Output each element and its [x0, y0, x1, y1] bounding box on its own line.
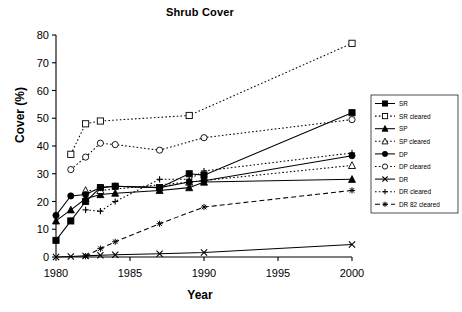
marker-filled-circle: [201, 178, 207, 184]
marker-asterisk: [112, 239, 118, 245]
marker-asterisk: [349, 187, 355, 193]
marker-filled-circle: [68, 193, 74, 199]
marker-filled-square: [186, 171, 192, 177]
marker-open-circle: [97, 140, 103, 146]
series-dr-82-cleared: [83, 187, 356, 259]
marker-asterisk: [157, 221, 163, 227]
marker-plus: [97, 208, 103, 214]
legend-label: DR 82 cleared: [399, 201, 440, 208]
marker-open-square: [349, 40, 355, 46]
y-tick-label: 70: [37, 57, 49, 69]
y-tick-label: 0: [43, 251, 49, 263]
legend-entry-sr-cleared[interactable]: SR cleared: [375, 113, 431, 120]
marker-plus: [83, 207, 89, 213]
y-tick-label: 40: [37, 140, 49, 152]
x-tick-label: 1985: [118, 267, 142, 279]
legend-entry-dr-82-cleared[interactable]: DR 82 cleared: [375, 201, 440, 208]
legend-label: DP: [399, 151, 408, 158]
x-tick-label: 1990: [192, 267, 216, 279]
legend-label: DR: [399, 176, 409, 183]
marker-filled-triangle: [67, 206, 74, 213]
y-tick-label: 50: [37, 112, 49, 124]
marker-asterisk: [201, 204, 207, 210]
marker-filled-circle: [112, 183, 118, 189]
marker-filled-circle: [83, 191, 89, 197]
marker-filled-square: [53, 237, 59, 243]
marker-open-triangle: [349, 162, 356, 169]
series-line: [71, 43, 352, 154]
marker-filled-square: [68, 218, 74, 224]
marker-open-square: [68, 151, 74, 157]
marker-open-square: [83, 121, 89, 127]
y-tick-label: 10: [37, 223, 49, 235]
marker-open-circle: [349, 117, 355, 123]
x-tick-label: 1980: [44, 267, 68, 279]
marker-open-square: [186, 112, 192, 118]
legend-label: DP cleared: [399, 163, 431, 170]
legend: SRSR clearedSPSP clearedDPDP clearedDRDR…: [371, 95, 458, 213]
marker-asterisk: [83, 253, 89, 259]
marker-open-circle: [112, 142, 118, 148]
marker-filled-circle: [157, 185, 163, 191]
series-sr-cleared: [68, 40, 355, 157]
series-sr: [53, 110, 355, 244]
marker-open-circle: [68, 166, 74, 172]
series-dp-cleared: [68, 117, 355, 173]
legend-label: DR cleared: [399, 188, 431, 195]
legend-entry-dp-cleared[interactable]: DP cleared: [375, 163, 431, 170]
marker-open-circle: [201, 135, 207, 141]
marker-asterisk: [97, 246, 103, 252]
marker-filled-square: [382, 101, 387, 106]
marker-filled-circle: [53, 212, 59, 218]
x-tick-label: 2000: [340, 267, 364, 279]
series-sp-cleared: [82, 162, 355, 194]
legend-label: SP: [399, 125, 408, 132]
marker-filled-circle: [382, 151, 387, 156]
y-tick-label: 30: [37, 168, 49, 180]
marker-asterisk: [382, 202, 387, 207]
marker-plus: [157, 176, 163, 182]
marker-open-circle: [382, 164, 387, 169]
marker-open-circle: [157, 147, 163, 153]
marker-plus: [112, 198, 118, 204]
x-tick-label: 1995: [266, 267, 290, 279]
legend-label: SR: [399, 100, 408, 107]
y-tick-label: 20: [37, 196, 49, 208]
marker-filled-square: [349, 110, 355, 116]
marker-filled-circle: [97, 185, 103, 191]
marker-open-square: [97, 118, 103, 124]
legend-label: SR cleared: [399, 113, 431, 120]
y-tick-label: 60: [37, 85, 49, 97]
legend-label: SP cleared: [399, 138, 431, 145]
marker-open-square: [382, 114, 387, 119]
chart-figure: Shrub Cover Cover (%) Year 0102030405060…: [0, 0, 462, 312]
plot-area: 0102030405060708019801985199019952000SRS…: [0, 0, 462, 312]
marker-open-circle: [83, 154, 89, 160]
y-tick-label: 80: [37, 29, 49, 41]
